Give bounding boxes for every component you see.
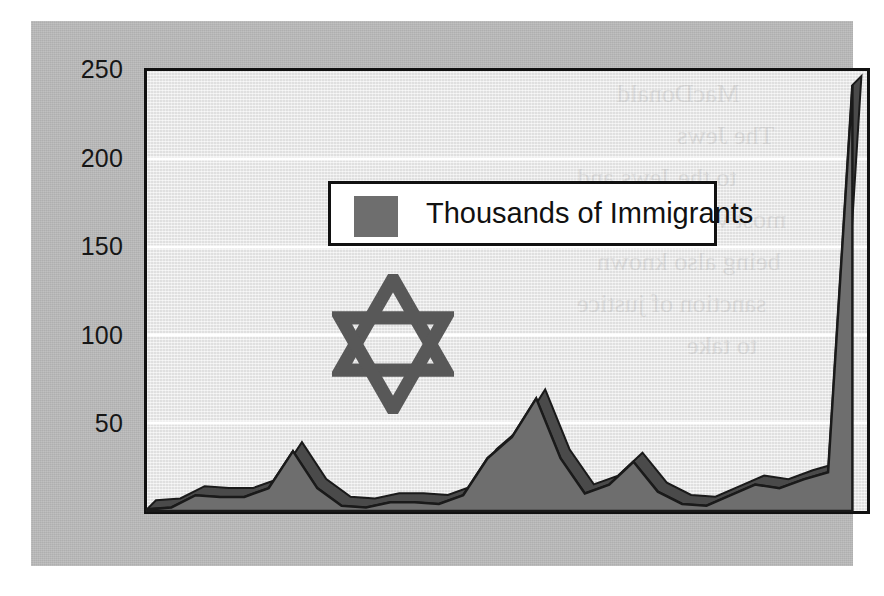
star-of-david-icon [332,274,454,414]
immigration-chart-figure: 250 200 150 100 50 1920 1925 1930 1935 1… [0,0,884,596]
chart-legend: Thousands of Immigrants [328,181,717,246]
chart-panel: 250 200 150 100 50 1920 1925 1930 1935 1… [31,21,853,566]
area-series-immigrants [147,85,852,511]
y-tick-label-50: 50 [31,409,123,438]
plot-area: MacDonald The Jews to the Jews and most … [144,68,870,514]
series-layer [147,76,861,511]
legend-label-immigrants: Thousands of Immigrants [426,197,753,230]
area-series-plot [147,71,867,511]
y-tick-label-200: 200 [31,144,123,173]
y-tick-label-100: 100 [31,321,123,350]
y-tick-label-250: 250 [31,55,123,84]
y-tick-label-150: 150 [31,232,123,261]
legend-swatch-immigrants [354,196,398,237]
